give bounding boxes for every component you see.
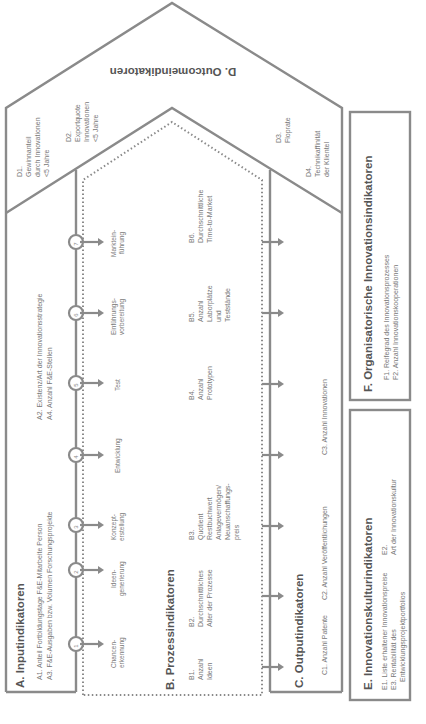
svg-text:Ideen: Ideen — [206, 662, 213, 680]
output-arrow-6 — [262, 309, 284, 317]
step-label-3b: erstellung — [118, 512, 126, 541]
svg-text:Teststände: Teststände — [224, 288, 231, 322]
b-items: B1. Anzahl Ideen B2. Durchschnittliches … — [188, 190, 241, 680]
svg-text:Durchschnittliches: Durchschnittliches — [197, 570, 204, 627]
svg-text:Technikaffinität: Technikaffinität — [314, 131, 321, 177]
f-box — [350, 112, 410, 400]
e3-item-cont: Entwicklungsprojektportfolios — [399, 591, 407, 682]
svg-text:D3.: D3. — [275, 132, 282, 143]
c1-item: C1. Anzahl Patente — [321, 615, 328, 675]
svg-text:Laborplätze: Laborplätze — [206, 285, 214, 322]
svg-text:der Klientel: der Klientel — [323, 142, 330, 177]
step-pin-7 — [69, 235, 104, 249]
f1-item: F1. Reifegrad des Innovationsprozesses — [383, 254, 391, 380]
step-label-4a: Entwicklung — [114, 438, 122, 473]
step-label-3a: Konzept- — [110, 514, 118, 540]
e2-item: E2. — [381, 544, 388, 555]
svg-text:Alter der Prozesse: Alter der Prozesse — [206, 569, 213, 627]
step-pin-4 — [69, 448, 104, 462]
a1-item: A1. Anteil Fortbildungstage F&E-Mitarbei… — [36, 523, 44, 680]
section-d-title: D. Outcomeindikatoren — [110, 66, 237, 78]
inner-roof-d-boundary — [6, 108, 342, 213]
step-label-7a: Marktein- — [110, 230, 117, 257]
svg-text:Anzahl: Anzahl — [197, 300, 204, 322]
svg-text:Prototypen: Prototypen — [206, 366, 214, 400]
section-a-title: A. Inputindikatoren — [14, 583, 26, 688]
a3-item: A3. F&E-Ausgaben bzw. Volumen Forschungs… — [46, 511, 54, 680]
e1-item: E1. Liste erhaltener Innovationspreise — [381, 572, 389, 690]
c2-item: C2. Anzahl Veröffentlichungen — [321, 506, 329, 600]
step-label-2b: generierung — [118, 561, 126, 596]
section-c-title: C. Outputindikatoren — [293, 574, 305, 688]
section-e-title: E. Innovationskulturindikatoren — [362, 517, 374, 690]
svg-text:Gewinnanteil: Gewinnanteil — [25, 136, 32, 177]
svg-text:B1.: B1. — [188, 669, 195, 680]
step-label-7b: führung — [118, 232, 126, 254]
svg-text:Durchschnittliche: Durchschnittliche — [197, 190, 204, 243]
svg-text:Restbuchwert: Restbuchwert — [206, 497, 213, 540]
svg-text:B2.: B2. — [188, 616, 195, 627]
svg-text:und: und — [215, 310, 222, 322]
output-arrow-5 — [262, 380, 284, 388]
step-label-5a: Test — [114, 379, 121, 391]
svg-text:Anlagevermögen/: Anlagevermögen/ — [215, 485, 223, 540]
step-pin-6 — [69, 306, 104, 320]
step-label-1b: erkennung — [118, 637, 126, 668]
svg-text:preis: preis — [233, 524, 241, 540]
svg-text:B3.: B3. — [188, 529, 195, 540]
output-arrow-2 — [262, 592, 284, 600]
svg-text:Floprate: Floprate — [284, 117, 292, 143]
step-pin-2 — [69, 563, 104, 577]
output-arrow-3 — [262, 522, 284, 530]
svg-text:Quotient: Quotient — [197, 513, 205, 540]
svg-text:B4.: B4. — [188, 389, 195, 400]
svg-text:D4.: D4. — [305, 166, 312, 177]
svg-text:D2.: D2. — [65, 131, 72, 142]
output-arrow-7 — [262, 238, 284, 246]
svg-text:<5 Jahre: <5 Jahre — [43, 149, 50, 177]
svg-text:Innovationen: Innovationen — [83, 102, 90, 142]
output-arrow-1 — [262, 663, 284, 671]
c3-item: C3. Anzahl Innovationen — [321, 379, 328, 455]
section-f-title: F. Organisatorische Innovationsindikator… — [362, 156, 374, 392]
svg-text:Neuanschaffungs-: Neuanschaffungs- — [224, 483, 232, 540]
step-label-6a: Einführungs- — [110, 298, 118, 335]
svg-text:D1.: D1. — [16, 166, 23, 177]
svg-text:Exportquote: Exportquote — [74, 104, 82, 142]
output-arrow-4 — [262, 451, 284, 459]
step-pin-3 — [69, 518, 104, 532]
section-b-title: B. Prozessindikatoren — [164, 569, 176, 690]
e3-item: E3. Rentabilität des — [390, 629, 397, 690]
innovation-indicator-house-diagram: D. Outcomeindikatoren A. Inputindikatore… — [0, 0, 426, 724]
a4-item: A4. Anzahl F&E-Stellen — [46, 347, 53, 420]
svg-text:durch Innovationen: durch Innovationen — [34, 117, 41, 177]
output-arrows — [262, 238, 284, 671]
e2-item-cont: Art der Innovationskultur — [390, 478, 397, 555]
step-label-6b: vorbereitung — [118, 298, 126, 335]
process-step-pins — [69, 235, 104, 651]
svg-text:B6.: B6. — [188, 232, 195, 243]
step-label-2a: Ideen- — [110, 570, 117, 588]
svg-text:<5 Jahre: <5 Jahre — [92, 114, 99, 142]
svg-text:B5.: B5. — [188, 311, 195, 322]
step-pin-5 — [69, 376, 104, 390]
svg-text:Time-to-Market: Time-to-Market — [206, 196, 213, 243]
step-pin-1 — [69, 637, 104, 651]
a2-item: A2. Existenz/Art der Innovationsstrategi… — [36, 293, 44, 420]
f2-item: F2. Anzahl Innovationskooperationen — [392, 265, 400, 380]
svg-text:Anzahl: Anzahl — [197, 658, 204, 680]
step-label-1a: Chancen- — [110, 640, 117, 668]
svg-text:Anzahl: Anzahl — [197, 378, 204, 400]
d-items: D1. Gewinnanteil durch Innovationen <5 J… — [16, 102, 330, 177]
